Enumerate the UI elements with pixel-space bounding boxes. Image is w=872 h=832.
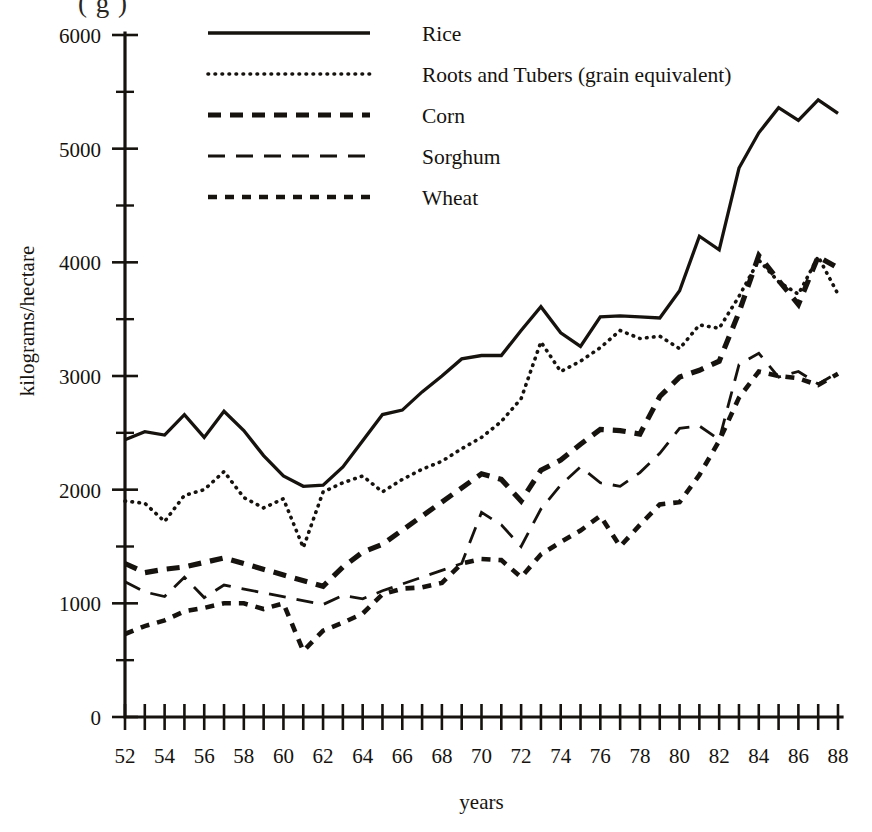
x-axis-tick-label: 84 (748, 744, 770, 768)
x-axis-tick-label: 88 (828, 744, 849, 768)
x-axis-tick-label: 62 (313, 744, 334, 768)
x-axis-tick-label: 72 (511, 744, 532, 768)
y-axis-tick-label: 4000 (59, 251, 101, 275)
y-axis-tick-label: 5000 (59, 138, 101, 162)
y-axis-tick-label: 0 (91, 706, 102, 730)
series-line-sorghum (125, 353, 838, 604)
y-axis-tick-label: 2000 (59, 479, 101, 503)
legend-label-2: Corn (422, 104, 465, 128)
y-axis-tick-label: 3000 (59, 365, 101, 389)
y-axis-tick-label: 6000 (59, 24, 101, 48)
x-axis-title: years (459, 790, 503, 814)
x-axis-tick-label: 80 (669, 744, 690, 768)
x-axis-tick-label: 70 (471, 744, 492, 768)
x-axis-tick-label: 82 (709, 744, 730, 768)
chart-axes (125, 33, 842, 717)
x-axis-tick-label: 52 (115, 744, 136, 768)
x-axis-tick-label: 60 (273, 744, 294, 768)
y-axis-title: kilograms/hectare (15, 246, 39, 396)
y-axis-tick-label: 1000 (59, 592, 101, 616)
legend-label-1: Roots and Tubers (grain equivalent) (422, 63, 731, 87)
x-axis-tick-label: 68 (431, 744, 452, 768)
x-axis-tick-label: 86 (788, 744, 809, 768)
x-axis-tick-label: 66 (392, 744, 413, 768)
series-line-roots (125, 257, 838, 548)
line-chart: 0100020003000400050006000525456586062646… (0, 0, 872, 832)
x-axis-tick-label: 64 (352, 744, 374, 768)
x-axis-tick-label: 56 (194, 744, 215, 768)
x-axis-tick-label: 54 (154, 744, 176, 768)
legend-label-4: Wheat (422, 186, 478, 210)
legend-label-3: Sorghum (422, 145, 501, 169)
x-axis-tick-label: 78 (629, 744, 650, 768)
top-caption-fragment: ( g ) (78, 0, 128, 19)
x-axis-tick-label: 76 (590, 744, 611, 768)
legend-label-0: Rice (422, 22, 461, 46)
x-axis-tick-label: 74 (550, 744, 572, 768)
figure-root: ( g ) 0100020003000400050006000525456586… (0, 0, 872, 832)
x-axis-tick-label: 58 (233, 744, 254, 768)
